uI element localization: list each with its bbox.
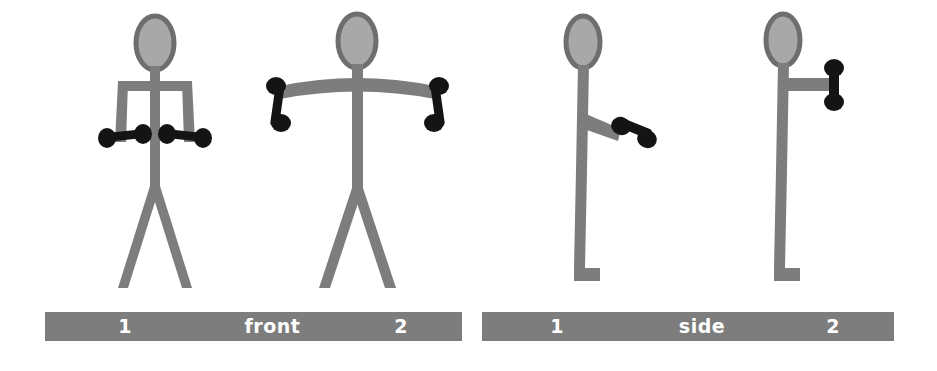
figure-front-1: [90, 0, 220, 300]
figure-side-2: [755, 0, 875, 300]
side-2-head: [766, 14, 800, 66]
front-2-body: [280, 64, 435, 288]
side-1-body: [574, 65, 621, 281]
front-2-head: [338, 14, 376, 68]
side-position-1-number: 1: [482, 312, 632, 341]
exercise-diagram: 1 front 2 1 side 2: [0, 0, 937, 371]
figure-front-2: [260, 0, 455, 300]
figure-side-1: [555, 0, 675, 300]
side-2-body: [774, 63, 832, 281]
label-bar-front: 1 front 2: [45, 312, 462, 341]
front-position-1-number: 1: [45, 312, 205, 341]
side-1-head: [566, 16, 600, 68]
side-1-dumbbell: [608, 114, 659, 151]
side-view-label: side: [632, 312, 772, 341]
front-1-body: [115, 66, 195, 288]
front-position-2-number: 2: [340, 312, 462, 341]
label-bar-side: 1 side 2: [482, 312, 894, 341]
side-position-2-number: 2: [772, 312, 894, 341]
front-1-head: [136, 16, 174, 70]
front-view-label: front: [205, 312, 340, 341]
